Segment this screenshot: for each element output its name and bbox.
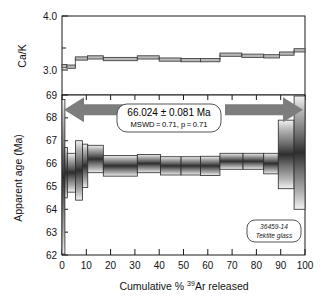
- cak-step-band: [294, 49, 305, 52]
- age-y-tick-label: 66: [46, 158, 58, 169]
- age-step-box: [220, 153, 243, 169]
- ar-ar-age-spectrum-figure: 4.0 3.0 Ca/K 6263646566676869 0102030405…: [0, 0, 325, 301]
- x-axis-title-post: Ar released: [195, 280, 249, 292]
- age-y-tick-label: 69: [46, 90, 58, 101]
- age-y-tick-label: 67: [46, 135, 58, 146]
- callout-stats-text: MSWD = 0.71, p = 0.71: [131, 120, 208, 129]
- x-axis-title: Cumulative % 39Ar released: [119, 280, 248, 292]
- age-step-box: [76, 141, 83, 200]
- sample-material-text: Tektite glass: [256, 232, 293, 240]
- cak-tick-label-4: 4.0: [43, 11, 57, 22]
- age-step-box: [278, 120, 294, 189]
- cak-step-band: [67, 65, 76, 68]
- cak-axis-title: Ca/K: [16, 44, 28, 67]
- age-step-box: [264, 153, 279, 174]
- callout-age-text: 66.024 ± 0.081 Ma: [127, 107, 211, 118]
- age-step-box: [201, 156, 220, 175]
- age-step-box: [82, 144, 87, 187]
- cak-step-band: [103, 57, 137, 60]
- age-y-tick-label: 63: [46, 227, 58, 238]
- age-x-tick-label: 80: [251, 260, 263, 271]
- age-x-tick-label: 10: [81, 260, 93, 271]
- cak-panel: 4.0 3.0 Ca/K: [16, 11, 305, 95]
- age-x-tick-label: 70: [227, 260, 239, 271]
- age-x-tick-label: 90: [275, 260, 287, 271]
- cak-step-band: [75, 57, 87, 60]
- age-x-tick-label: 20: [105, 260, 117, 271]
- cak-step-band: [181, 58, 200, 61]
- age-axis-title: Apparent age (Ma): [12, 134, 24, 222]
- age-step-box: [103, 156, 137, 177]
- age-y-tick-label: 68: [46, 112, 58, 123]
- age-y-tick-label: 62: [46, 250, 58, 261]
- age-step-box: [62, 100, 65, 254]
- age-x-tick-label: 50: [178, 260, 190, 271]
- age-step-box: [67, 153, 75, 192]
- age-y-tick-labels: 6263646566676869: [46, 90, 58, 261]
- cak-step-band: [264, 55, 280, 58]
- x-axis-title-superscript: 39: [187, 280, 195, 287]
- sample-label: 36459-14 Tektite glass: [247, 220, 301, 242]
- age-x-tick-label: 30: [129, 260, 141, 271]
- sample-id-text: 36459-14: [260, 223, 288, 230]
- age-step-box: [243, 153, 264, 169]
- cak-step-band: [242, 54, 264, 57]
- age-step-box: [160, 157, 181, 175]
- cak-step-band: [279, 52, 294, 55]
- cak-step-band: [159, 58, 181, 61]
- x-axis-title-pre: Cumulative %: [119, 280, 187, 292]
- age-x-tick-label: 100: [297, 260, 314, 271]
- age-y-tick-label: 64: [46, 204, 58, 215]
- age-x-tick-label: 60: [202, 260, 214, 271]
- cak-step-band: [62, 64, 67, 67]
- age-step-box: [181, 157, 200, 175]
- cak-step-band: [88, 56, 104, 59]
- age-y-tick-label: 65: [46, 181, 58, 192]
- figure-root: 4.0 3.0 Ca/K 6263646566676869 0102030405…: [0, 0, 325, 301]
- age-x-tick-label: 0: [59, 260, 65, 271]
- age-step-box: [88, 145, 104, 172]
- age-step-box: [137, 154, 160, 172]
- cak-step-band: [137, 56, 159, 59]
- cak-step-band: [220, 53, 242, 56]
- age-x-tick-label: 40: [154, 260, 166, 271]
- cak-step-band: [201, 58, 220, 61]
- plateau-callout: 66.024 ± 0.081 Ma MSWD = 0.71, p = 0.71: [117, 104, 221, 132]
- cak-tick-label-3: 3.0: [43, 65, 57, 76]
- age-x-tick-labels: 0102030405060708090100: [59, 260, 314, 271]
